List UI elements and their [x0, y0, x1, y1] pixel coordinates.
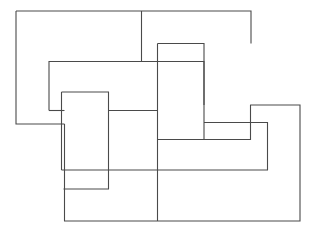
interlocking-rectangles-figure — [0, 0, 315, 231]
